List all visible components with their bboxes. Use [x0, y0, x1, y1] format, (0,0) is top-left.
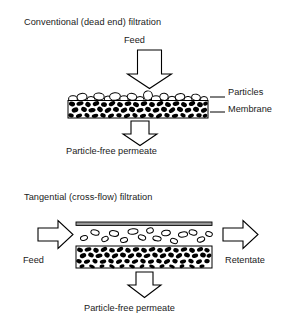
- filtration-diagram: Conventional (dead end) filtration Feed …: [0, 0, 300, 321]
- suspended-particles-layer: [80, 227, 213, 244]
- cross-flow-retentate-arrow-icon: [223, 221, 258, 249]
- cross-flow-feed-arrow-icon: [38, 221, 73, 249]
- channel-top-wall: [76, 222, 212, 225]
- cross-flow-graphics: [0, 0, 300, 321]
- cross-flow-permeate-arrow-icon: [128, 272, 161, 298]
